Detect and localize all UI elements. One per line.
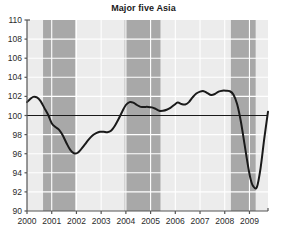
y-axis-tick-label: 106: [8, 53, 22, 63]
x-axis-tick-labels: 2000200120022003200420052006200720082009: [18, 216, 260, 226]
x-axis-tick-label: 2001: [42, 216, 61, 226]
y-axis-tick-label: 104: [8, 72, 22, 82]
chart-container: Major five Asia 909294969810010210410610…: [0, 0, 287, 243]
x-axis-tick-label: 2009: [240, 216, 259, 226]
x-axis-tick-label: 2003: [92, 216, 111, 226]
x-axis-tick-label: 2002: [67, 216, 86, 226]
y-axis-tick-labels: 9092949698100102104106108110: [8, 15, 22, 216]
y-axis-tick-label: 96: [13, 149, 23, 159]
x-axis-tick-label: 2008: [215, 216, 234, 226]
y-axis-tick-label: 94: [13, 168, 23, 178]
y-axis-tick-label: 92: [13, 187, 23, 197]
y-axis-tick-label: 98: [13, 130, 23, 140]
x-axis-tick-label: 2004: [116, 216, 135, 226]
chart-plot-area: 9092949698100102104106108110 20002001200…: [0, 0, 287, 243]
x-axis-tick-label: 2006: [166, 216, 185, 226]
x-axis-tick-label: 2005: [141, 216, 160, 226]
y-axis-tick-label: 90: [13, 206, 23, 216]
x-axis-tick-label: 2007: [191, 216, 210, 226]
y-axis-tick-label: 108: [8, 34, 22, 44]
y-axis-tick-label: 102: [8, 91, 22, 101]
y-axis-tick-label: 110: [8, 15, 22, 25]
x-axis-tick-label: 2000: [18, 216, 37, 226]
y-axis-tick-label: 100: [8, 111, 22, 121]
